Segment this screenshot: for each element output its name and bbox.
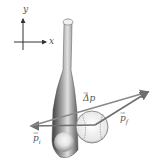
- momentum-diagram: y x Δp pf pi: [0, 0, 153, 167]
- delta-p-label: Δp: [83, 94, 95, 103]
- coordinate-axes: [14, 19, 46, 50]
- baseball-bat: [52, 19, 78, 158]
- y-axis-label: y: [23, 5, 28, 14]
- x-axis-label: x: [49, 37, 54, 46]
- baseball: [76, 111, 108, 143]
- p-final-label: pf: [120, 114, 128, 126]
- diagram-canvas: [0, 0, 153, 167]
- vector-p-initial: [31, 125, 95, 126]
- p-initial-label: pi: [33, 134, 41, 146]
